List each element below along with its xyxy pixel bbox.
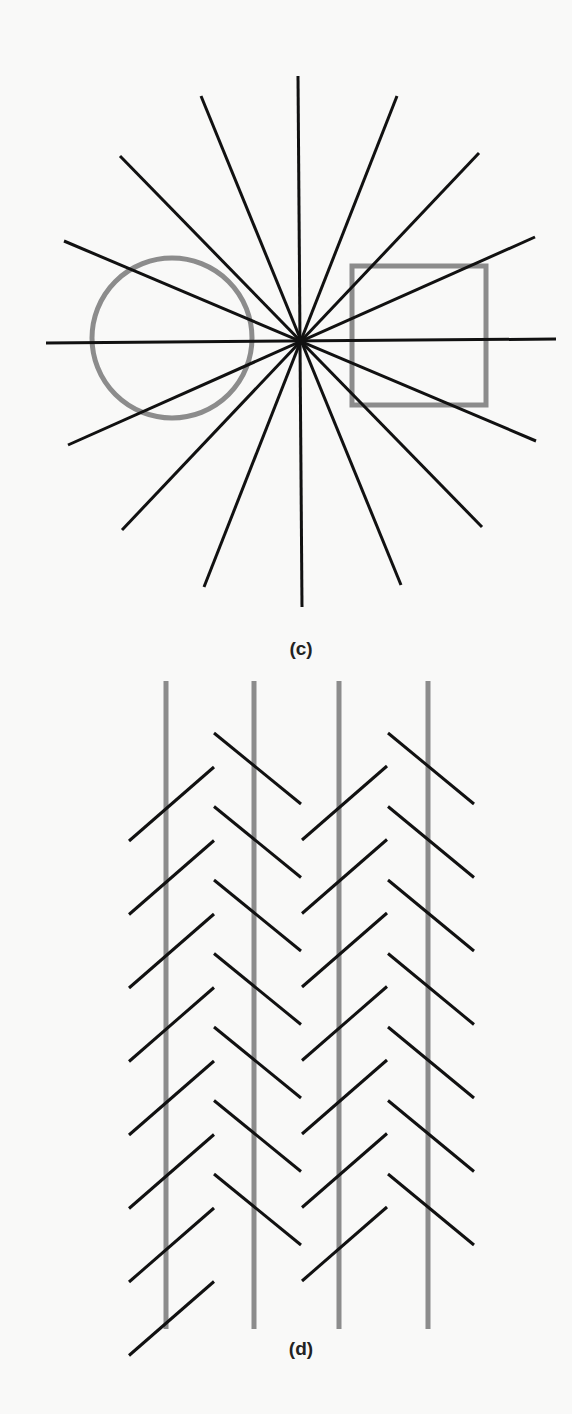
- figure-c-radiating-lines: [46, 76, 556, 607]
- oblique-hatch-line: [302, 913, 387, 987]
- oblique-hatch-line: [214, 1027, 301, 1098]
- gray-square: [352, 266, 486, 405]
- illusion-diagram: [0, 0, 572, 1414]
- oblique-hatch-line: [388, 1174, 474, 1245]
- oblique-hatch-line: [302, 1134, 387, 1208]
- oblique-hatch-line: [214, 807, 301, 878]
- oblique-hatch-line: [302, 987, 387, 1061]
- oblique-hatch-line: [129, 841, 214, 915]
- oblique-hatch-line: [129, 1061, 214, 1135]
- oblique-hatch-line: [214, 1101, 301, 1172]
- oblique-hatch-line: [129, 914, 214, 988]
- oblique-hatch-line: [129, 767, 214, 841]
- oblique-hatch-line: [388, 733, 474, 804]
- oblique-hatch-line: [129, 1208, 214, 1282]
- oblique-hatch-line: [388, 880, 474, 951]
- oblique-hatch-line: [129, 1135, 214, 1209]
- oblique-hatch-line: [214, 1174, 301, 1245]
- oblique-hatch-line: [302, 766, 387, 840]
- oblique-hatch-line: [129, 988, 214, 1062]
- oblique-hatch-line: [214, 733, 301, 804]
- oblique-hatch-line: [388, 807, 474, 878]
- oblique-hatch-line: [388, 1101, 474, 1172]
- figure-d-zollner-lines: [129, 681, 474, 1356]
- oblique-hatch-line: [388, 954, 474, 1025]
- oblique-hatch-line: [302, 1060, 387, 1134]
- oblique-hatch-line: [214, 954, 301, 1025]
- oblique-hatch-line: [129, 1282, 214, 1356]
- figure-d-caption: (d): [261, 1338, 341, 1360]
- oblique-hatch-line: [388, 1027, 474, 1098]
- oblique-hatch-line: [302, 1207, 387, 1281]
- figure-c-caption: (c): [261, 638, 341, 660]
- gray-circle: [92, 258, 252, 418]
- oblique-hatch-line: [214, 880, 301, 951]
- oblique-hatch-line: [302, 840, 387, 914]
- ray-center-point: [296, 337, 304, 345]
